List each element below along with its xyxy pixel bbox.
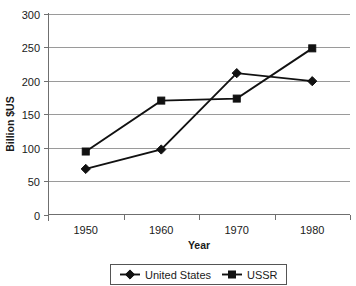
series-line [86,48,313,151]
data-point-marker [308,77,317,86]
y-axis-title: Billion $US [4,96,16,151]
x-axis-tick-label: 1960 [149,224,173,236]
series-ussr [82,45,316,155]
x-axis-tick-labels: 1950196019701980 [74,224,325,236]
chart-legend: United StatesUSSR [111,265,287,285]
y-axis-tick-label: 300 [22,9,40,21]
x-axis-tick-label: 1950 [74,224,98,236]
data-series-group [81,45,317,174]
y-axis-tick-label: 150 [22,109,40,121]
y-axis-tick-label: 200 [22,76,40,88]
x-axis-ticks [49,215,351,220]
data-point-marker [82,148,89,155]
y-axis-tick-label: 50 [28,176,40,188]
series-line [86,73,313,169]
data-point-marker [233,95,240,102]
y-axis-ticks [44,15,48,216]
y-axis-tick-label: 100 [22,143,40,155]
legend-label: United States [145,269,212,281]
x-axis-title: Year [188,239,210,251]
x-axis-tick-label: 1970 [225,224,249,236]
data-point-marker [81,164,90,173]
legend-label: USSR [247,269,278,281]
x-axis-tick-label: 1980 [300,224,324,236]
chart-canvas: 050100150200250300 1950196019701980 Bill… [0,0,356,286]
line-chart: 050100150200250300 1950196019701980 Bill… [0,0,356,286]
data-point-marker [309,45,316,52]
series-united-states [81,69,317,174]
y-axis-tick-label: 0 [34,210,40,222]
y-axis-tick-labels: 050100150200250300 [22,9,40,222]
grid-lines [48,15,350,182]
y-axis-tick-label: 250 [22,42,40,54]
square-marker-icon [229,271,236,278]
data-point-marker [158,97,165,104]
